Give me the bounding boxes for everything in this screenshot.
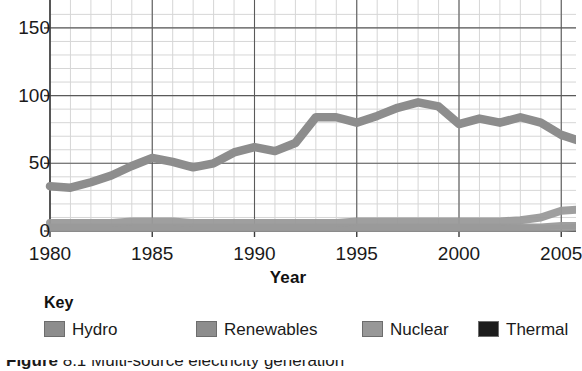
x-tick-label: 1995 xyxy=(336,243,378,265)
y-tick-label: 100 xyxy=(0,86,50,105)
x-tick-label: 2000 xyxy=(438,243,480,265)
legend-item-hydro: Hydro xyxy=(44,316,117,342)
caption-label: Figure xyxy=(6,360,58,370)
legend-item-thermal: Thermal xyxy=(478,316,568,342)
y-tick-label: 50 xyxy=(0,153,50,172)
legend-label: Thermal xyxy=(506,321,568,338)
legend-item-nuclear: Nuclear xyxy=(362,316,449,342)
legend-label: Nuclear xyxy=(390,321,449,338)
figure-caption-text: Figure 8.1 Multi-source electricity gene… xyxy=(6,360,344,371)
y-tick-label: 0 xyxy=(0,221,50,240)
legend-item-renewables: Renewables xyxy=(196,316,318,342)
data-series-group xyxy=(50,102,576,228)
x-tick-label: 2005 xyxy=(540,243,582,265)
x-tick-label: 1980 xyxy=(29,243,71,265)
legend-swatch-icon xyxy=(362,321,383,337)
key-heading: Key xyxy=(44,294,73,312)
x-tick-label: 1985 xyxy=(131,243,173,265)
y-tick-label: 150 xyxy=(0,18,50,37)
legend-swatch-icon xyxy=(44,321,65,337)
caption-rest: 8.1 Multi-source electricity generation xyxy=(58,360,344,370)
x-axis-title: Year xyxy=(0,268,576,288)
figure-caption-cropped: Figure 8.1 Multi-source electricity gene… xyxy=(0,360,576,371)
series-line-thermal xyxy=(50,102,576,187)
legend-swatch-icon xyxy=(478,321,499,337)
chart-legend: HydroRenewablesNuclearThermal xyxy=(44,316,576,342)
line-chart-svg xyxy=(0,0,576,240)
legend-swatch-icon xyxy=(196,321,217,337)
legend-label: Renewables xyxy=(224,321,318,338)
legend-label: Hydro xyxy=(72,321,117,338)
plot-area xyxy=(0,0,576,240)
series-line-hydro xyxy=(50,209,576,223)
x-tick-label: 1990 xyxy=(233,243,275,265)
